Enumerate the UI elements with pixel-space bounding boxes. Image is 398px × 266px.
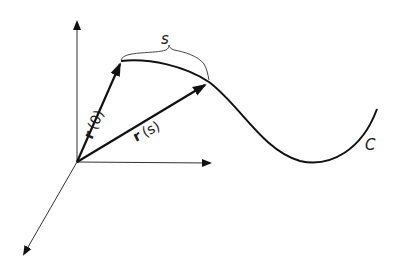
curve-label: C [365,136,376,154]
svg-text:(0): (0) [84,107,107,132]
arc-length-label: s [161,30,169,48]
x-axis [24,162,77,254]
svg-text:(s): (s) [139,118,162,141]
arc-length-diagram: s C r (0) r (s) [0,0,398,266]
r0-label: r (0) [80,107,107,141]
rs-label: r (s) [130,118,162,145]
y-axis [77,162,210,163]
